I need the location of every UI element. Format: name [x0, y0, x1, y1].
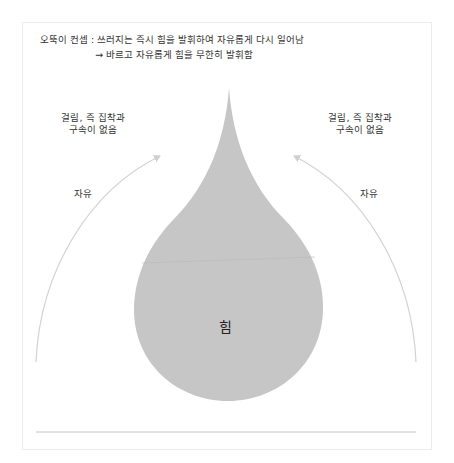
power-drop-shape [134, 88, 323, 401]
power-label: 힘 [219, 316, 232, 336]
diagram-graphic [0, 0, 454, 463]
